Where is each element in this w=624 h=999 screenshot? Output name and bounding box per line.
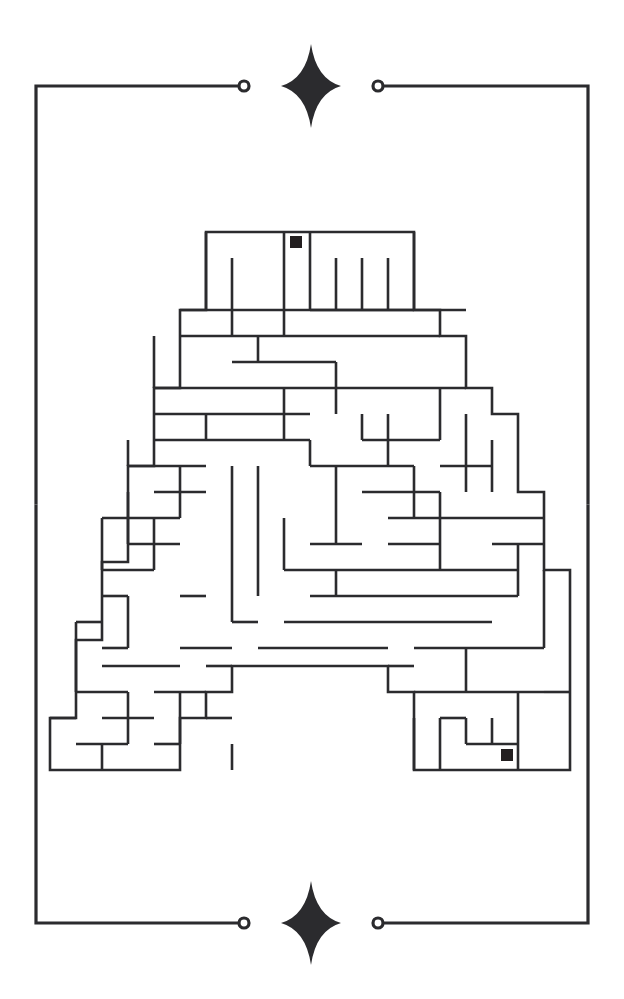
start-marker	[290, 236, 302, 248]
end-marker	[501, 749, 513, 761]
maze-artwork	[0, 0, 624, 999]
top-right-dot-icon	[373, 81, 383, 91]
page-background	[0, 0, 624, 999]
maze-page	[0, 0, 624, 999]
bottom-right-dot-icon	[373, 918, 383, 928]
bottom-left-dot-icon	[239, 918, 249, 928]
top-left-dot-icon	[239, 81, 249, 91]
